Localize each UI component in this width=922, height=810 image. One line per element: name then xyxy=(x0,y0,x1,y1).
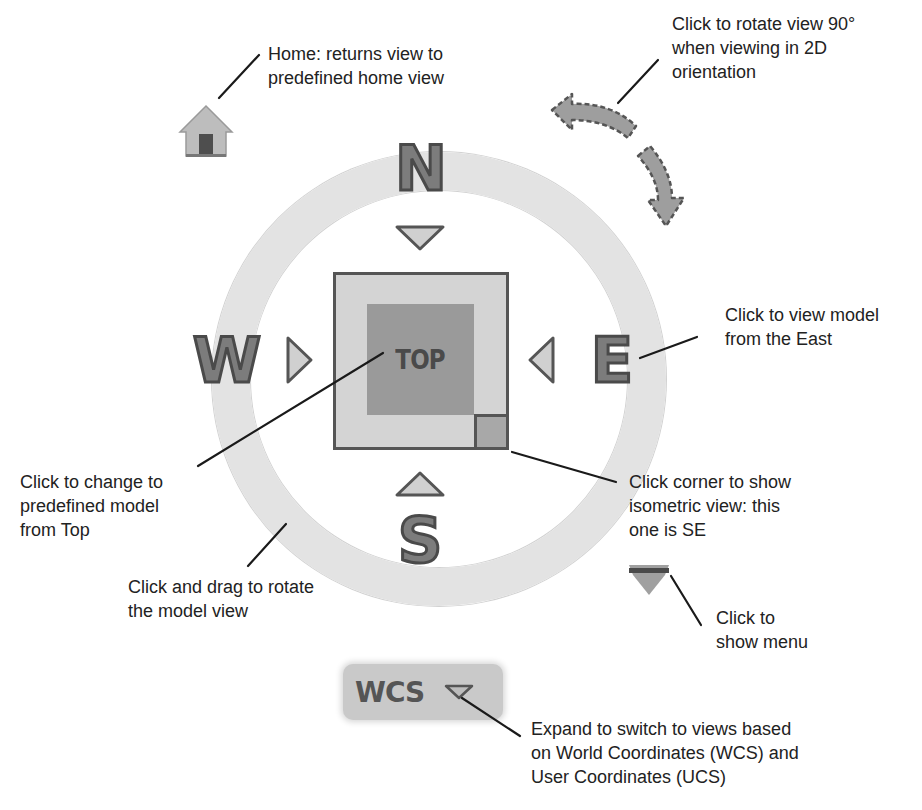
compass-east[interactable]: E xyxy=(585,330,639,392)
callout-ring: Click and drag to rotate the model view xyxy=(128,575,314,623)
callout-line: when viewing in 2D xyxy=(672,36,855,60)
viewcube-diagram: N S E W TOP WCS xyxy=(0,0,922,810)
rotate-clockwise-icon[interactable] xyxy=(632,142,690,230)
callout-line: show menu xyxy=(716,630,808,654)
wcs-label: WCS xyxy=(355,676,424,709)
callout-line: Click to view model xyxy=(725,303,879,327)
callout-line: from the East xyxy=(725,327,879,351)
callout-line: Click to change to xyxy=(20,470,163,494)
callout-line: Home: returns view to xyxy=(268,42,444,66)
callout-line: from Top xyxy=(20,518,163,542)
callout-line: orientation xyxy=(672,60,855,84)
view-north-triangle[interactable] xyxy=(394,224,446,252)
callout-line: isometric view: this xyxy=(629,494,791,518)
compass-south[interactable]: S xyxy=(391,510,449,572)
compass-west[interactable]: W xyxy=(188,330,266,392)
callout-line: Click corner to show xyxy=(629,470,791,494)
menu-caret-icon[interactable] xyxy=(627,561,671,597)
callout-line: User Coordinates (UCS) xyxy=(531,765,799,789)
compass-north[interactable]: N xyxy=(392,138,450,200)
callout-line: the model view xyxy=(128,599,314,623)
callout-corner: Click corner to show isometric view: thi… xyxy=(629,470,791,542)
rotate-counterclockwise-icon[interactable] xyxy=(550,92,640,144)
callout-wcs: Expand to switch to views based on World… xyxy=(531,717,799,789)
view-east-triangle[interactable] xyxy=(526,335,556,385)
callout-east: Click to view model from the East xyxy=(725,303,879,351)
callout-line: on World Coordinates (WCS) and xyxy=(531,741,799,765)
view-south-triangle[interactable] xyxy=(394,470,446,498)
callout-line: Click to rotate view 90° xyxy=(672,12,855,36)
view-west-triangle[interactable] xyxy=(285,335,315,385)
callout-rotate: Click to rotate view 90° when viewing in… xyxy=(672,12,855,84)
viewcube[interactable]: TOP xyxy=(333,272,509,450)
callout-line: Click and drag to rotate xyxy=(128,575,314,599)
callout-top: Click to change to predefined model from… xyxy=(20,470,163,542)
viewcube-face-label: TOP xyxy=(396,344,445,375)
viewcube-se-corner[interactable] xyxy=(474,414,506,447)
callout-line: Click to xyxy=(716,606,808,630)
callout-line: one is SE xyxy=(629,518,791,542)
callout-line: predefined model xyxy=(20,494,163,518)
wcs-dropdown-button[interactable]: WCS xyxy=(343,664,503,720)
home-icon[interactable] xyxy=(178,104,234,160)
chevron-down-icon xyxy=(444,684,474,700)
callout-line: Expand to switch to views based xyxy=(531,717,799,741)
viewcube-top-face[interactable]: TOP xyxy=(367,304,474,415)
callout-line: predefined home view xyxy=(268,66,444,90)
callout-menu: Click to show menu xyxy=(716,606,808,654)
callout-home: Home: returns view to predefined home vi… xyxy=(268,42,444,90)
